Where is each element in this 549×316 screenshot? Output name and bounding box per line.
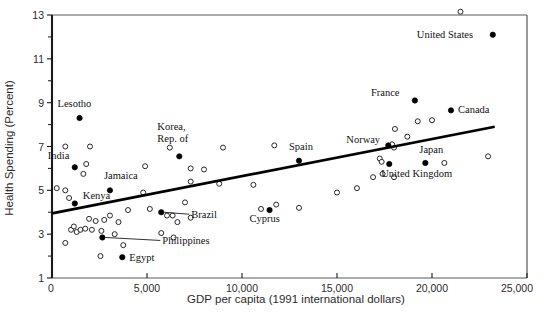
data-point <box>221 145 226 150</box>
point-label: Norway <box>346 134 381 145</box>
point-label: Kenya <box>83 190 111 201</box>
data-point <box>54 186 59 191</box>
data-point-labeled <box>267 207 272 212</box>
y-axis-title: Health Spending (Percent) <box>3 80 15 216</box>
data-point <box>272 143 277 148</box>
axis-tick-labels: 13579111305,00010,00015,00020,00025,000 <box>32 9 533 294</box>
data-point <box>93 219 98 224</box>
data-point <box>202 167 207 172</box>
data-point <box>458 9 463 14</box>
data-point <box>167 145 172 150</box>
data-point-labeled <box>387 161 392 166</box>
y-tick-label: 3 <box>38 228 44 240</box>
data-point <box>415 119 420 124</box>
data-point <box>112 232 117 237</box>
point-label: France <box>371 87 400 98</box>
data-point <box>297 205 302 210</box>
data-point <box>126 208 131 213</box>
data-point <box>430 118 435 123</box>
point-label: Cyprus <box>250 213 280 224</box>
scatter-plot: 13579111305,00010,00015,00020,00025,000 … <box>0 0 549 316</box>
data-point <box>143 164 148 169</box>
data-point <box>83 226 88 231</box>
y-tick-label: 9 <box>38 97 44 109</box>
x-tick-label: 5,000 <box>134 282 160 294</box>
data-point <box>335 190 340 195</box>
data-point <box>107 213 112 218</box>
data-point <box>175 220 180 225</box>
point-label: Brazil <box>191 209 217 220</box>
point-label: Spain <box>289 141 314 152</box>
data-point <box>67 196 72 201</box>
x-tick-label: 20,000 <box>416 282 448 294</box>
point-label: United States <box>417 29 473 40</box>
y-tick-label: 7 <box>38 141 44 153</box>
data-point <box>63 188 68 193</box>
data-point <box>63 144 68 149</box>
data-point-labeled <box>448 108 453 113</box>
data-point <box>170 213 175 218</box>
point-label: Philippines <box>162 235 209 246</box>
point-label: Korea, <box>157 121 185 132</box>
chart-figure: 13579111305,00010,00015,00020,00025,000 … <box>0 0 549 316</box>
data-point-labeled <box>159 210 164 215</box>
data-point <box>354 186 359 191</box>
data-point-labeled <box>490 32 495 37</box>
data-point-labeled <box>296 158 301 163</box>
data-point <box>147 206 152 211</box>
data-point <box>274 202 279 207</box>
x-tick-label: 0 <box>48 282 54 294</box>
data-point <box>87 216 92 221</box>
data-point-labels: LesothoIndiaKenyaJamaicaEgyptPhilippines… <box>48 29 490 263</box>
data-point <box>78 227 83 232</box>
y-tick-label: 5 <box>38 184 44 196</box>
data-point <box>81 171 86 176</box>
data-point-labeled <box>72 165 77 170</box>
point-label: Lesotho <box>58 98 92 109</box>
data-point <box>99 228 104 233</box>
data-point-labeled <box>77 115 82 120</box>
point-label: Rep. of <box>157 133 188 144</box>
data-point-labeled <box>412 98 417 103</box>
data-point <box>71 224 76 229</box>
data-point <box>183 200 188 205</box>
data-point <box>379 159 384 164</box>
y-tick-label: 13 <box>32 9 44 21</box>
point-label: India <box>48 150 70 161</box>
data-point <box>89 227 94 232</box>
data-point <box>121 243 126 248</box>
data-point <box>442 160 447 165</box>
data-point <box>371 175 376 180</box>
data-point <box>98 254 103 259</box>
data-point <box>116 220 121 225</box>
y-tick-label: 1 <box>38 272 44 284</box>
data-point-labeled <box>72 201 77 206</box>
data-point <box>63 240 68 245</box>
data-point-labeled <box>177 154 182 159</box>
point-label: Canada <box>458 104 490 115</box>
point-label: Japan <box>419 144 444 155</box>
data-point-labeled <box>120 254 125 259</box>
data-point-labeled <box>423 160 428 165</box>
x-axis-title: GDP per capita (1991 international dolla… <box>187 293 405 305</box>
y-tick-label: 11 <box>33 53 44 65</box>
data-point-labeled <box>386 143 391 148</box>
data-point <box>164 213 169 218</box>
data-point <box>405 134 410 139</box>
point-label: Egypt <box>129 252 154 263</box>
point-label: United Kingdom <box>381 168 452 179</box>
data-point-labeled <box>100 235 105 240</box>
data-point <box>88 144 93 149</box>
point-label: Jamaica <box>104 170 138 181</box>
data-point <box>486 154 491 159</box>
data-point <box>188 166 193 171</box>
data-point <box>188 179 193 184</box>
x-tick-label: 25,000 <box>501 282 533 294</box>
data-point <box>259 206 264 211</box>
data-point <box>251 182 256 187</box>
data-point <box>392 126 397 131</box>
data-point <box>102 217 107 222</box>
data-point <box>84 162 89 167</box>
